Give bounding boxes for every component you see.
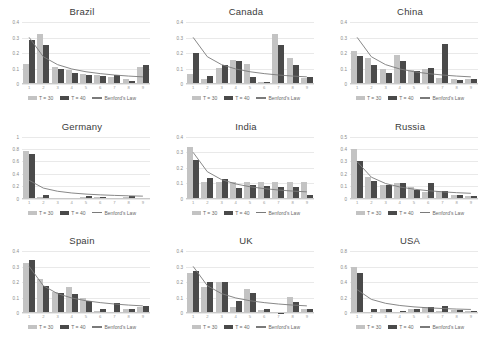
panel-title: Russia <box>328 121 492 132</box>
x-axis-tick-label: 4 <box>393 200 407 205</box>
plot-area: 00.10.20.30.4 <box>350 22 478 84</box>
legend-item-t30[interactable]: T = 30 <box>192 95 217 101</box>
legend-item-benford[interactable]: Benford's Law <box>256 324 300 330</box>
legend-item-t30[interactable]: T = 30 <box>356 95 381 101</box>
benford-law-line <box>186 137 314 199</box>
x-axis-tick-label: 2 <box>364 314 378 319</box>
legend-item-t30[interactable]: T = 30 <box>192 324 217 330</box>
y-axis-tick-label: 0 <box>16 311 19 316</box>
x-axis-tick-label: 2 <box>36 200 50 205</box>
chart-panel-china: China00.10.20.30.4123456789T = 30T = 40B… <box>328 0 492 115</box>
legend-label: T = 40 <box>71 324 85 330</box>
chart-legend: T = 30T = 40Benford's Law <box>164 324 328 330</box>
y-axis-tick-label: 0 <box>344 196 347 201</box>
x-axis-tick-label: 6 <box>93 314 107 319</box>
x-axis-tick-label: 6 <box>93 200 107 205</box>
y-axis-tick-label: 0.2 <box>177 165 183 170</box>
y-axis-tick-label: 0.2 <box>177 51 183 56</box>
legend-item-benford[interactable]: Benford's Law <box>92 210 136 216</box>
y-axis-tick-label: 0 <box>180 311 183 316</box>
chart-panel-brazil: Brazil00.10.20.30.4123456789T = 30T = 40… <box>0 0 164 115</box>
chart-legend: T = 30T = 40Benford's Law <box>328 95 492 101</box>
x-axis-tick-label: 3 <box>214 314 228 319</box>
y-axis-tick-label: 0.4 <box>177 249 183 254</box>
x-axis-tick-label: 4 <box>229 314 243 319</box>
legend-label: T = 40 <box>71 95 85 101</box>
legend-label: T = 40 <box>235 95 249 101</box>
legend-item-t40[interactable]: T = 40 <box>224 95 249 101</box>
legend-label: T = 30 <box>203 324 217 330</box>
legend-label: Benford's Law <box>104 210 136 216</box>
legend-item-benford[interactable]: Benford's Law <box>420 324 464 330</box>
legend-item-t40[interactable]: T = 40 <box>224 324 249 330</box>
x-axis-tick-label: 8 <box>450 85 464 90</box>
legend-item-t30[interactable]: T = 30 <box>192 210 217 216</box>
x-axis-tick-label: 5 <box>243 314 257 319</box>
legend-item-t40[interactable]: T = 40 <box>224 210 249 216</box>
x-axis-tick-label: 3 <box>378 200 392 205</box>
x-axis-tick-label: 8 <box>286 314 300 319</box>
y-axis-tick-label: 0.2 <box>13 184 19 189</box>
chart-legend: T = 30T = 40Benford's Law <box>328 324 492 330</box>
x-axis-tick-label: 7 <box>435 85 449 90</box>
legend-item-benford[interactable]: Benford's Law <box>420 95 464 101</box>
legend-item-t40[interactable]: T = 40 <box>388 324 413 330</box>
y-axis-tick-label: 0.3 <box>13 264 19 269</box>
legend-swatch-icon <box>60 96 69 100</box>
y-axis-tick-label: 0 <box>16 82 19 87</box>
legend-item-benford[interactable]: Benford's Law <box>92 324 136 330</box>
legend-item-t30[interactable]: T = 30 <box>356 324 381 330</box>
legend-label: T = 40 <box>399 210 413 216</box>
benford-law-line <box>186 22 314 84</box>
legend-item-benford[interactable]: Benford's Law <box>92 95 136 101</box>
x-axis-tick-label: 5 <box>79 85 93 90</box>
y-axis-tick-label: 0.2 <box>177 280 183 285</box>
x-axis-tick-label: 1 <box>350 314 364 319</box>
legend-line-icon <box>256 326 266 328</box>
legend-swatch-icon <box>28 96 37 100</box>
legend-item-t40[interactable]: T = 40 <box>60 210 85 216</box>
y-axis-tick-label: 0.3 <box>177 264 183 269</box>
x-axis-tick-label: 3 <box>378 314 392 319</box>
legend-item-t40[interactable]: T = 40 <box>60 95 85 101</box>
legend-line-icon <box>92 97 102 99</box>
chart-legend: T = 30T = 40Benford's Law <box>328 210 492 216</box>
legend-item-t30[interactable]: T = 30 <box>356 210 381 216</box>
benford-law-line <box>22 22 150 84</box>
legend-label: Benford's Law <box>268 324 300 330</box>
panel-title: USA <box>328 235 492 246</box>
legend-label: Benford's Law <box>432 324 464 330</box>
y-axis-tick-label: 0.1 <box>177 66 183 71</box>
legend-item-benford[interactable]: Benford's Law <box>256 210 300 216</box>
panel-title: China <box>328 6 492 17</box>
x-axis-tick-label: 8 <box>122 85 136 90</box>
legend-swatch-icon <box>60 325 69 329</box>
x-axis-tick-label: 5 <box>407 85 421 90</box>
x-axis-tick-label: 7 <box>271 85 285 90</box>
panel-title: India <box>164 121 328 132</box>
x-axis-line <box>22 83 150 84</box>
x-axis-tick-label: 5 <box>407 314 421 319</box>
x-axis-tick-label: 3 <box>214 200 228 205</box>
legend-label: T = 30 <box>367 324 381 330</box>
legend-item-t40[interactable]: T = 40 <box>60 324 85 330</box>
legend-label: T = 30 <box>367 95 381 101</box>
legend-item-benford[interactable]: Benford's Law <box>256 95 300 101</box>
x-axis-labels: 123456789 <box>350 200 478 205</box>
x-axis-tick-label: 5 <box>79 200 93 205</box>
y-axis-tick-label: 0.8 <box>341 249 347 254</box>
x-axis-tick-label: 9 <box>300 200 314 205</box>
chart-legend: T = 30T = 40Benford's Law <box>0 95 164 101</box>
y-axis-tick-label: 0.1 <box>13 66 19 71</box>
chart-panel-uk: UK00.10.20.30.4123456789T = 30T = 40Benf… <box>164 229 328 344</box>
legend-item-t40[interactable]: T = 40 <box>388 210 413 216</box>
legend-item-t40[interactable]: T = 40 <box>388 95 413 101</box>
legend-item-t30[interactable]: T = 30 <box>28 324 53 330</box>
legend-item-t30[interactable]: T = 30 <box>28 210 53 216</box>
legend-item-t30[interactable]: T = 30 <box>28 95 53 101</box>
x-axis-tick-label: 7 <box>107 85 121 90</box>
benford-law-line <box>350 22 478 84</box>
x-axis-line <box>186 312 314 313</box>
legend-item-benford[interactable]: Benford's Law <box>420 210 464 216</box>
x-axis-tick-label: 2 <box>36 314 50 319</box>
